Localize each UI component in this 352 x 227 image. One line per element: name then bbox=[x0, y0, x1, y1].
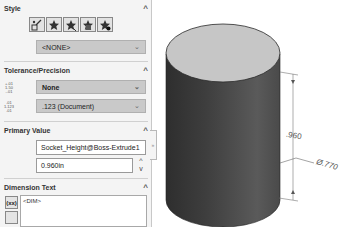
spin-down-button[interactable]: v bbox=[137, 166, 145, 172]
dimension-text-section-header[interactable]: Dimension Text ^ bbox=[4, 181, 148, 193]
chevron-down-icon: ⌄ bbox=[134, 83, 140, 91]
dimension-text-section: Dimension Text ^ bbox=[4, 181, 148, 193]
collapse-icon[interactable]: ^ bbox=[143, 126, 148, 135]
primary-value-section: Primary Value ^ bbox=[4, 124, 148, 136]
cylinder-model[interactable] bbox=[152, 0, 352, 227]
tolerance-section: Tolerance/Precision ^ bbox=[4, 64, 148, 76]
spin-up-button[interactable]: ^ bbox=[137, 158, 145, 164]
graphics-viewport[interactable]: .960 Ø.770 bbox=[152, 0, 352, 227]
style-select-value: <NONE> bbox=[42, 44, 70, 51]
apply-default-style-icon bbox=[31, 19, 43, 31]
style-select[interactable]: <NONE> ⌄ bbox=[36, 40, 146, 54]
cylinder-top-face bbox=[166, 24, 280, 82]
precision-select[interactable]: .123 (Document) ⌄ bbox=[36, 99, 146, 113]
dimension-text-section-title: Dimension Text bbox=[4, 184, 56, 191]
divider bbox=[4, 121, 148, 122]
dimension-value-field[interactable]: 0.960in bbox=[36, 158, 133, 173]
style-section: Style ^ bbox=[4, 2, 148, 14]
diameter-leader-line bbox=[280, 158, 314, 163]
tolerance-type-icon: +.011.50-.01 bbox=[3, 82, 15, 94]
delete-style-icon bbox=[65, 19, 77, 31]
dimension-text-option-button[interactable] bbox=[5, 211, 18, 224]
dimension-text-area[interactable]: <DIM> bbox=[20, 195, 147, 227]
precision-icon: .011.123.01 bbox=[3, 101, 15, 113]
apply-default-style-button[interactable] bbox=[29, 17, 45, 32]
tolerance-section-header[interactable]: Tolerance/Precision ^ bbox=[4, 64, 148, 76]
delete-style-button[interactable] bbox=[63, 17, 79, 32]
dimension-placeholder-button[interactable]: (xx) bbox=[5, 196, 18, 209]
tolerance-section-title: Tolerance/Precision bbox=[4, 67, 70, 74]
tolerance-type-value: None bbox=[42, 84, 60, 91]
add-style-icon bbox=[48, 19, 60, 31]
load-style-icon bbox=[99, 19, 111, 31]
chevron-down-icon: ⌄ bbox=[134, 102, 140, 110]
dimension-name-field[interactable]: Socket_Height@Boss-Extrude1 bbox=[36, 140, 146, 155]
style-icon-toolbar bbox=[29, 17, 113, 32]
load-style-button[interactable] bbox=[97, 17, 113, 32]
primary-value-section-title: Primary Value bbox=[4, 127, 50, 134]
save-style-icon bbox=[82, 19, 94, 31]
chevron-down-icon: ⌄ bbox=[134, 43, 140, 51]
tolerance-type-select[interactable]: None ⌄ bbox=[36, 80, 146, 94]
style-section-header[interactable]: Style ^ bbox=[4, 2, 148, 14]
property-manager-panel: Style ^ <NONE> ⌄ Tolerance/Precision ^ bbox=[0, 0, 152, 227]
collapse-icon[interactable]: ^ bbox=[143, 183, 148, 192]
save-style-button[interactable] bbox=[80, 17, 96, 32]
collapse-icon[interactable]: ^ bbox=[143, 4, 148, 13]
divider bbox=[4, 178, 148, 179]
divider bbox=[4, 61, 148, 62]
style-section-title: Style bbox=[4, 5, 21, 12]
primary-value-section-header[interactable]: Primary Value ^ bbox=[4, 124, 148, 136]
collapse-icon[interactable]: ^ bbox=[143, 66, 148, 75]
add-style-button[interactable] bbox=[46, 17, 62, 32]
precision-value: .123 (Document) bbox=[42, 103, 94, 110]
